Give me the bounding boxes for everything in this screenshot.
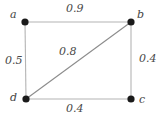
edge-a-d: [25, 22, 26, 99]
node-d: [22, 95, 29, 102]
edge-weight-d-b: 0.8: [59, 46, 77, 57]
node-a: [21, 18, 28, 25]
edge-weight-b-c: 0.4: [139, 53, 157, 64]
node-label-b: b: [137, 9, 144, 20]
edge-d-b: [26, 22, 131, 99]
node-label-a: a: [10, 9, 17, 20]
node-label-d: d: [10, 92, 17, 103]
edge-weight-a-b: 0.9: [66, 3, 84, 14]
edge-weight-a-d: 0.5: [5, 55, 23, 66]
node-label-c: c: [139, 94, 145, 105]
node-c: [127, 95, 134, 102]
graph-figure: a b c d 0.9 0.5 0.4 0.4 0.8: [0, 0, 162, 119]
node-b: [127, 18, 134, 25]
edge-weight-d-c: 0.4: [66, 103, 84, 114]
